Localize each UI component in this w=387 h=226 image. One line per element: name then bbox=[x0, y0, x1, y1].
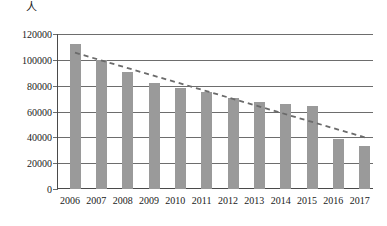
y-axis-tick-labels: 120000 100000 80000 60000 40000 20000 0 bbox=[0, 34, 52, 189]
trendline-svg bbox=[57, 34, 373, 189]
y-tick-label: 20000 bbox=[27, 159, 52, 169]
y-tick-label: 60000 bbox=[27, 108, 52, 118]
y-tick-label: 120000 bbox=[22, 30, 52, 40]
y-tick-label: 40000 bbox=[27, 133, 52, 143]
bar-chart: 人 120000 100000 80000 60000 40000 20000 … bbox=[0, 0, 387, 226]
y-tick-label: 100000 bbox=[22, 56, 52, 66]
y-tick-label: 80000 bbox=[27, 82, 52, 92]
plot-area bbox=[57, 34, 373, 189]
y-tick-label: 0 bbox=[47, 185, 52, 195]
x-tick-label: 2017 bbox=[342, 195, 378, 206]
x-axis-tick-labels: 2006 2007 2008 2009 2010 2011 2012 2013 … bbox=[57, 195, 373, 211]
y-axis-unit-label: 人 bbox=[26, 2, 37, 14]
trendline-dashed bbox=[75, 53, 365, 138]
